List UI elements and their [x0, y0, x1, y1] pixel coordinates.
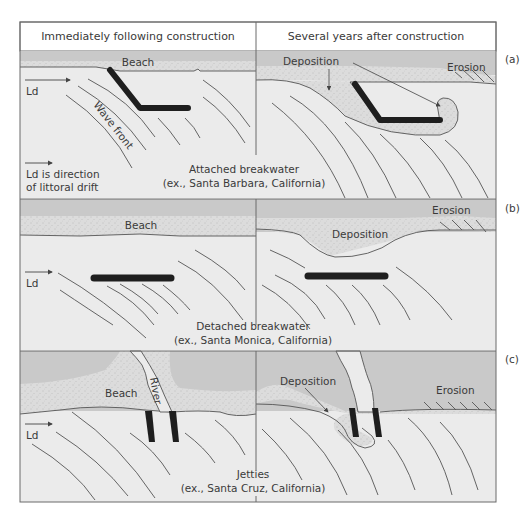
- drift-label: Ld: [26, 429, 39, 441]
- erosion-label: Erosion: [432, 204, 471, 216]
- deposition-label: Deposition: [280, 375, 336, 387]
- panel-b-caption-2: (ex., Santa Monica, California): [174, 334, 332, 346]
- beach-label: Beach: [122, 56, 155, 68]
- deposition-label: Deposition: [332, 228, 388, 240]
- drift-label: Ld: [26, 85, 39, 97]
- panel-b-caption-1: Detached breakwater: [196, 320, 310, 332]
- drift-label: Ld: [26, 277, 39, 289]
- panel-a-tag: (a): [505, 53, 520, 65]
- panel-c-caption-1: Jetties: [236, 468, 270, 480]
- coastal-structures-diagram: Immediately following construction Sever…: [0, 0, 530, 524]
- panel-a-attached-breakwater: Beach Wave front Ld Ld is direction of l…: [20, 51, 520, 198]
- legend-line-2: of littoral drift: [26, 181, 99, 193]
- panel-a-caption-1: Attached breakwater: [189, 163, 300, 175]
- column-header-row: Immediately following construction Sever…: [20, 22, 496, 51]
- panel-c-tag: (c): [505, 353, 519, 365]
- beach-label: Beach: [125, 219, 158, 231]
- beach-label: Beach: [105, 387, 138, 399]
- deposition-label: Deposition: [283, 55, 339, 67]
- panel-b-tag: (b): [505, 202, 520, 214]
- header-before: Immediately following construction: [41, 30, 235, 43]
- erosion-label: Erosion: [436, 384, 475, 396]
- erosion-label: Erosion: [447, 61, 486, 73]
- panel-b-detached-breakwater: Beach Ld Deposition Erosion: [20, 199, 520, 350]
- legend-line-1: Ld is direction: [26, 168, 100, 180]
- header-after: Several years after construction: [288, 30, 465, 43]
- panel-c-jetties: River Beach Ld Deposition Erosion: [20, 351, 519, 502]
- panel-c-caption-2: (ex., Santa Cruz, California): [181, 482, 326, 494]
- panel-a-caption-2: (ex., Santa Barbara, California): [163, 177, 326, 189]
